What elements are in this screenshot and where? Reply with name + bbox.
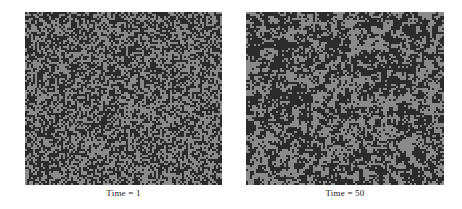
lattice-canvas-time-1 [25, 12, 222, 185]
panel-time-1: Time = 1 [0, 0, 231, 209]
panel-caption-time-1: Time = 1 [25, 188, 222, 199]
figure-container: Time = 1 Time = 50 [0, 0, 462, 209]
lattice-grid-time-50 [246, 12, 444, 185]
lattice-canvas-time-50 [246, 12, 444, 185]
panel-time-50: Time = 50 [231, 0, 462, 209]
lattice-grid-time-1 [25, 12, 222, 185]
panel-caption-time-50: Time = 50 [246, 188, 444, 199]
